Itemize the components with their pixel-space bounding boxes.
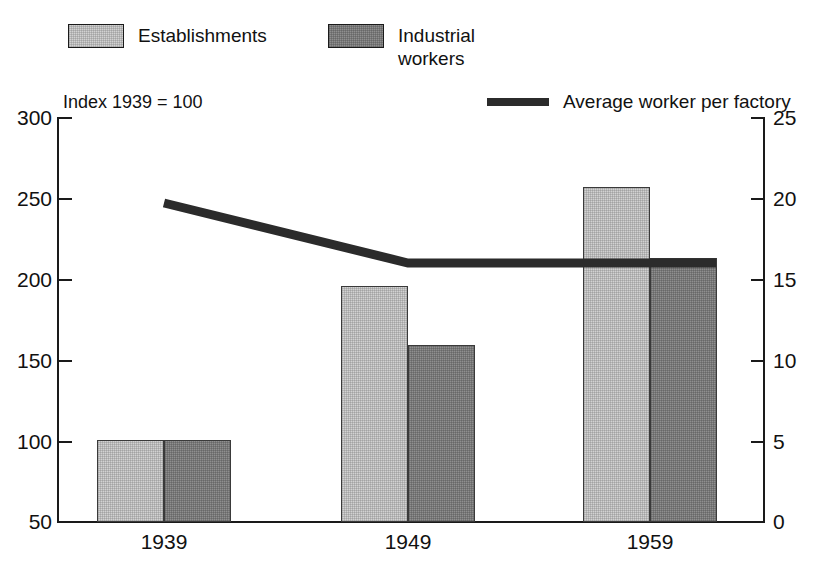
right-axis-line: [763, 117, 765, 523]
left-tick-100: [59, 441, 72, 443]
left-axis-line: [57, 117, 59, 523]
right-tick-10: [751, 360, 764, 362]
right-tick-label-0: 0: [773, 510, 823, 534]
bar-industrial-workers-1959: [650, 258, 717, 522]
left-tick-200: [59, 279, 72, 281]
right-tick-label-15: 15: [773, 268, 823, 292]
right-tick-label-10: 10: [773, 349, 823, 373]
chart-canvas: Establishments Industrial workers Averag…: [0, 0, 823, 561]
category-label-1939: 1939: [104, 530, 224, 554]
left-tick-300: [59, 117, 72, 119]
right-tick-15: [751, 279, 764, 281]
plot-area: Index 1939 = 100 300 250 200 150 100 50 …: [0, 0, 823, 561]
right-tick-20: [751, 198, 764, 200]
left-tick-label-250: 250: [0, 187, 52, 211]
left-tick-label-100: 100: [0, 430, 52, 454]
right-tick-5: [751, 441, 764, 443]
left-tick-label-150: 150: [0, 349, 52, 373]
left-tick-label-300: 300: [0, 106, 52, 130]
index-base-note: Index 1939 = 100: [63, 92, 203, 113]
left-tick-250: [59, 198, 72, 200]
right-tick-label-25: 25: [773, 106, 823, 130]
left-tick-label-50: 50: [0, 510, 52, 534]
category-label-1949: 1949: [348, 530, 468, 554]
right-tick-label-5: 5: [773, 430, 823, 454]
left-tick-label-200: 200: [0, 268, 52, 292]
bar-industrial-workers-1949: [408, 345, 475, 522]
right-tick-label-20: 20: [773, 187, 823, 211]
right-tick-25: [751, 117, 764, 119]
category-label-1959: 1959: [590, 530, 710, 554]
left-tick-150: [59, 360, 72, 362]
bar-establishments-1949: [341, 286, 408, 522]
bar-establishments-1939: [97, 440, 164, 522]
bar-industrial-workers-1939: [164, 440, 231, 522]
bar-establishments-1959: [583, 187, 650, 522]
